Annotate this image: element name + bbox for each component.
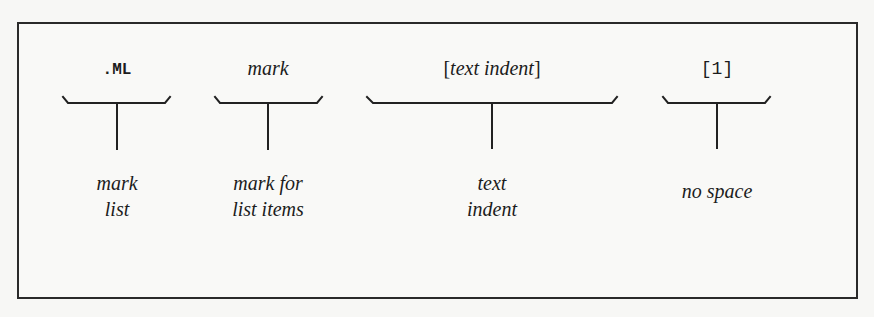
description-line: mark for [232, 170, 304, 196]
description-line: no space [682, 178, 753, 204]
description-text-indent: text indent [467, 170, 517, 222]
open-bracket: [ [443, 57, 450, 79]
token-mark: mark [247, 58, 288, 78]
token-no-space-arg: [1] [701, 60, 733, 78]
description-line: text [467, 170, 517, 196]
description-mark: mark for list items [232, 170, 304, 222]
token-text-indent: [text indent] [443, 58, 540, 78]
description-line: mark [96, 170, 137, 196]
close-bracket: ] [534, 57, 541, 79]
description-line: list items [232, 196, 304, 222]
description-macro: mark list [96, 170, 137, 222]
description-no-space: no space [682, 178, 753, 204]
description-line: indent [467, 196, 517, 222]
description-line: list [96, 196, 137, 222]
token-macro-ml: .ML [103, 62, 132, 78]
token-text-indent-label: text indent [450, 57, 534, 79]
